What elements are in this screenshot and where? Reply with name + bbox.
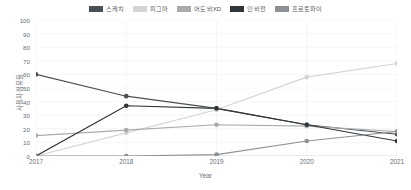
plot-svg	[36, 20, 397, 156]
legend-item[interactable]: 피그마	[133, 6, 168, 12]
y-axis-tick-label: 90	[23, 30, 30, 37]
legend-item-label: 프로토파이	[292, 6, 323, 12]
y-axis-tick-label: 20	[23, 125, 30, 132]
y-axis-tick-label: 60	[23, 71, 30, 78]
data-point[interactable]	[214, 106, 219, 111]
legend-swatch-icon	[275, 6, 289, 12]
x-axis-tick-label: 2017	[29, 158, 43, 165]
legend-swatch-icon	[89, 6, 103, 12]
x-axis-tick-label: 2018	[119, 158, 133, 165]
x-axis-tick-label: 2021	[390, 158, 404, 165]
data-point[interactable]	[304, 139, 309, 144]
data-point[interactable]	[124, 154, 129, 156]
data-point[interactable]	[36, 154, 38, 156]
data-point[interactable]	[395, 61, 397, 66]
data-point[interactable]	[124, 103, 129, 108]
y-axis-tick-label: 30	[23, 112, 30, 119]
chart-legend: 스케치피그마어도비XD인비전프로토파이	[0, 6, 411, 12]
data-point[interactable]	[304, 75, 309, 80]
legend-item[interactable]: 스케치	[89, 6, 124, 12]
legend-item[interactable]: 프로토파이	[275, 6, 323, 12]
legend-swatch-icon	[230, 6, 244, 12]
legend-item-label: 어도비XD	[194, 6, 221, 12]
line-chart: 스케치피그마어도비XD인비전프로토파이 사용자 점유율 010203040506…	[0, 0, 411, 190]
legend-swatch-icon	[177, 6, 191, 12]
data-point[interactable]	[36, 72, 38, 77]
y-axis-tick-label: 50	[23, 85, 30, 92]
legend-item-label: 스케치	[106, 6, 124, 12]
legend-item-label: 인비전	[247, 6, 265, 12]
data-point[interactable]	[304, 122, 309, 127]
y-axis-tick-label: 10	[23, 139, 30, 146]
x-axis-title: Year	[0, 172, 411, 179]
plot-area	[36, 20, 397, 156]
legend-item[interactable]: 어도비XD	[177, 6, 221, 12]
y-axis-tick-labels: 0102030405060708090100	[0, 20, 34, 156]
legend-swatch-icon	[133, 6, 147, 12]
data-point[interactable]	[36, 133, 38, 138]
legend-item-label: 피그마	[150, 6, 168, 12]
x-axis-tick-label: 2019	[209, 158, 223, 165]
data-point[interactable]	[124, 128, 129, 133]
data-point[interactable]	[214, 122, 219, 127]
legend-item[interactable]: 인비전	[230, 6, 265, 12]
x-axis-tick-label: 2020	[300, 158, 314, 165]
x-axis-tick-labels: 20172018201920202021	[36, 158, 397, 170]
y-axis-tick-label: 80	[23, 44, 30, 51]
y-axis-tick-label: 100	[20, 17, 30, 24]
data-point[interactable]	[214, 152, 219, 156]
y-axis-tick-label: 40	[23, 98, 30, 105]
data-point[interactable]	[124, 94, 129, 99]
y-axis-tick-label: 70	[23, 57, 30, 64]
